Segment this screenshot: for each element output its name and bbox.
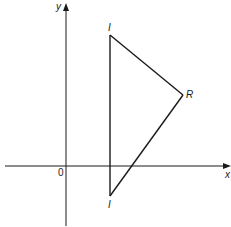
triangle-edge-right-bottom xyxy=(110,95,183,196)
x-axis-label: x xyxy=(224,169,231,180)
vertex-label-bottom: I xyxy=(108,199,111,210)
y-axis-label: y xyxy=(55,1,62,12)
vertex-label-top: I xyxy=(108,22,111,33)
coordinate-diagram: y 0 x I R I xyxy=(0,0,231,227)
origin-label: 0 xyxy=(58,167,64,178)
triangle-edge-top-right xyxy=(110,35,183,95)
y-axis-arrowhead xyxy=(63,3,69,11)
vertex-label-right: R xyxy=(186,89,193,100)
